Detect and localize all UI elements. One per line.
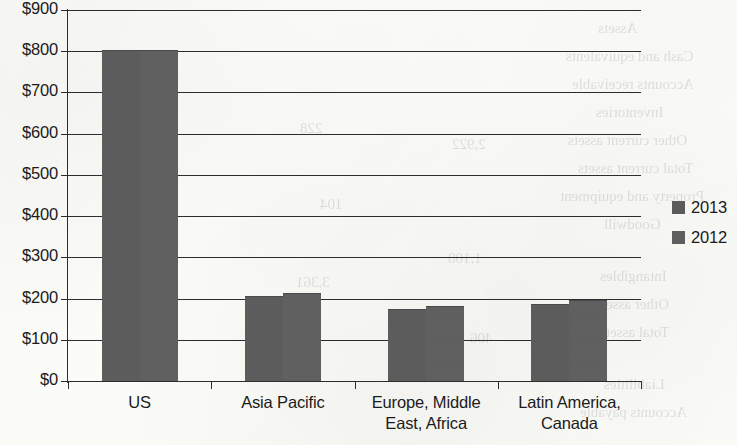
legend-item-2013[interactable]: 2013 (672, 192, 727, 222)
x-axis-tick (211, 381, 212, 389)
y-axis-label: $0 (0, 370, 58, 389)
x-axis-tick (355, 381, 356, 389)
x-axis-category-label: Asia Pacific (211, 392, 354, 413)
bar-2013-us[interactable] (102, 50, 140, 381)
x-axis-category-label: Latin America,Canada (498, 392, 641, 434)
x-axis-category-label-line: Canada (498, 413, 641, 434)
y-axis-tick (61, 134, 68, 135)
y-axis-tick (61, 299, 68, 300)
plot-area (68, 10, 641, 381)
x-axis-category-label: Europe, MiddleEast, Africa (355, 392, 498, 434)
bar-2012-us[interactable] (140, 50, 178, 381)
bar-2012-asia-pacific[interactable] (283, 293, 321, 381)
x-axis-tick (68, 381, 69, 389)
legend-swatch-icon (672, 231, 685, 244)
y-axis-label: $300 (0, 246, 58, 265)
y-axis-tick (61, 10, 68, 11)
x-axis-category-label-line: Asia Pacific (211, 392, 354, 413)
y-axis-label: $700 (0, 81, 58, 100)
x-axis-category-label: US (68, 392, 211, 413)
y-axis-label: $200 (0, 288, 58, 307)
y-axis-label: $900 (0, 0, 58, 18)
y-axis-tick (61, 175, 68, 176)
bar-2012-latin-america-canada[interactable] (569, 300, 607, 381)
bar-2013-asia-pacific[interactable] (245, 296, 283, 382)
y-axis-label: $100 (0, 329, 58, 348)
legend-swatch-icon (672, 201, 685, 214)
bar-2013-europe-middle-east-africa[interactable] (388, 309, 426, 381)
y-axis-label: $400 (0, 205, 58, 224)
y-axis-label: $600 (0, 123, 58, 142)
gridline (68, 10, 641, 11)
x-axis-tick (498, 381, 499, 389)
x-axis-category-label-line: Europe, Middle (355, 392, 498, 413)
x-axis-category-label-line: East, Africa (355, 413, 498, 434)
x-axis-category-label-line: US (68, 392, 211, 413)
chart-page: Assets Cash and equivalents Accounts rec… (0, 0, 737, 445)
y-axis-tick (61, 92, 68, 93)
chart-legend: 20132012 (672, 192, 727, 252)
bar-2012-europe-middle-east-africa[interactable] (426, 306, 464, 381)
y-axis-tick (61, 51, 68, 52)
x-axis-category-label-line: Latin America, (498, 392, 641, 413)
y-axis-tick (61, 257, 68, 258)
legend-item-label: 2012 (691, 228, 727, 247)
x-axis-tick (641, 381, 642, 389)
y-axis-label: $500 (0, 164, 58, 183)
y-axis-label: $800 (0, 40, 58, 59)
y-axis-tick (61, 216, 68, 217)
y-axis-line (67, 9, 68, 383)
y-axis-tick (61, 340, 68, 341)
legend-item-label: 2013 (691, 198, 727, 217)
legend-item-2012[interactable]: 2012 (672, 222, 727, 252)
bar-2013-latin-america-canada[interactable] (531, 304, 569, 381)
